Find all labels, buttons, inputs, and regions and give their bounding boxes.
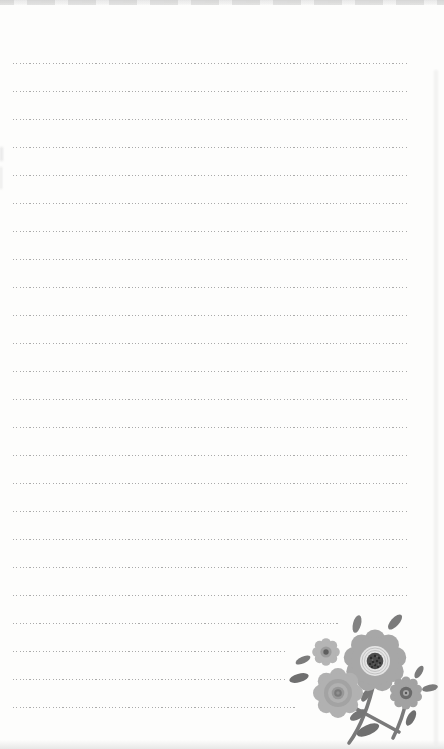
leaf-icon (404, 709, 419, 728)
ruled-line (13, 287, 409, 288)
ruled-line (13, 539, 409, 540)
notepad-page (0, 0, 444, 749)
leaf-icon (294, 654, 311, 667)
scan-smudge (0, 147, 3, 161)
ruled-line (13, 651, 286, 652)
ruled-line (13, 63, 409, 64)
ruled-line (13, 343, 409, 344)
ruled-line (13, 707, 297, 708)
ruled-line (13, 595, 409, 596)
leaf-icon (351, 614, 363, 633)
ruled-line (13, 231, 409, 232)
ruled-line (13, 427, 409, 428)
rose-flower (313, 668, 363, 718)
small-flower-center (323, 649, 328, 654)
small-flower (312, 638, 340, 666)
ruled-line (13, 315, 409, 316)
ruled-line (13, 399, 409, 400)
ruled-line (13, 91, 409, 92)
leaf-icon (421, 683, 438, 693)
ruled-line (13, 455, 409, 456)
page-top-edge-shadow (0, 0, 444, 5)
leaf-icon (413, 664, 426, 679)
ruled-line (13, 175, 409, 176)
flower-illustration (278, 598, 444, 749)
ruled-line (13, 119, 409, 120)
ruled-line (13, 567, 409, 568)
daisy-flower (390, 676, 422, 709)
ruled-line (13, 511, 409, 512)
flower-bouquet-svg (278, 598, 444, 749)
leaf-icon (386, 612, 405, 632)
ruled-line (13, 371, 409, 372)
leaf-icon (288, 671, 310, 685)
ruled-line (13, 483, 409, 484)
ruled-line (13, 147, 409, 148)
ruled-line (13, 259, 409, 260)
ruled-line (13, 679, 286, 680)
scan-smudge (0, 167, 2, 189)
ruled-line (13, 203, 409, 204)
